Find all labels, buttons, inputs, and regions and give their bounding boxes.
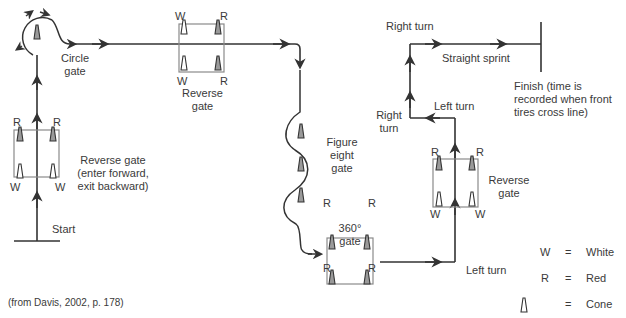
reverse-gate-3-label: Reversegate: [486, 174, 532, 200]
reverse-gate-1-label: Reverse gate(enter forward,exit backward…: [70, 154, 156, 193]
figure-eight-path: [284, 70, 312, 254]
reverse-gate-2-label: Reversegate: [175, 87, 230, 113]
obstacle-course-diagram: R R W W W R W R R R R R R R W W Circlega…: [0, 0, 626, 318]
cone-letter: R: [323, 262, 331, 275]
cone-letter: W: [55, 181, 65, 194]
legend-symbol-w: W: [540, 246, 550, 259]
cone-letter: W: [175, 10, 185, 23]
cone-letter: W: [475, 208, 485, 221]
cone-letter: R: [13, 116, 21, 129]
cone-letter: R: [53, 116, 61, 129]
cone-letter: R: [368, 197, 376, 210]
cone-letter: R: [323, 197, 331, 210]
legend-eq: =: [565, 298, 571, 311]
cone-icon: [521, 298, 527, 312]
right-turn-mid-label: Rightturn: [372, 109, 406, 135]
cone-letter: R: [368, 262, 376, 275]
cone-letter: W: [430, 208, 440, 221]
legend-meaning-cone: Cone: [586, 298, 612, 311]
legend-eq: =: [565, 272, 571, 285]
finish-label: Finish (time isrecorded when fronttires …: [514, 80, 612, 119]
cone-letter: R: [220, 10, 228, 23]
straight-sprint-label: Straight sprint: [442, 52, 510, 65]
legend-meaning-white: White: [586, 246, 614, 259]
legend-symbol-r: R: [541, 272, 549, 285]
gate-360-label: 360°gate: [333, 222, 367, 248]
legend-meaning-red: Red: [586, 272, 606, 285]
circle-gate-label: Circlegate: [52, 52, 98, 78]
cone-letter: W: [10, 181, 20, 194]
cone-letter: R: [476, 146, 484, 159]
citation: (from Davis, 2002, p. 178): [8, 296, 124, 309]
start-label: Start: [52, 223, 75, 236]
legend-eq: =: [565, 246, 571, 259]
right-turn-top-label: Right turn: [386, 20, 434, 33]
left-turn-top-label: Left turn: [434, 100, 474, 113]
cone-letter: R: [431, 146, 439, 159]
left-turn-bottom-label: Left turn: [466, 264, 506, 277]
figure-eight-label: Figureeightgate: [322, 136, 362, 175]
